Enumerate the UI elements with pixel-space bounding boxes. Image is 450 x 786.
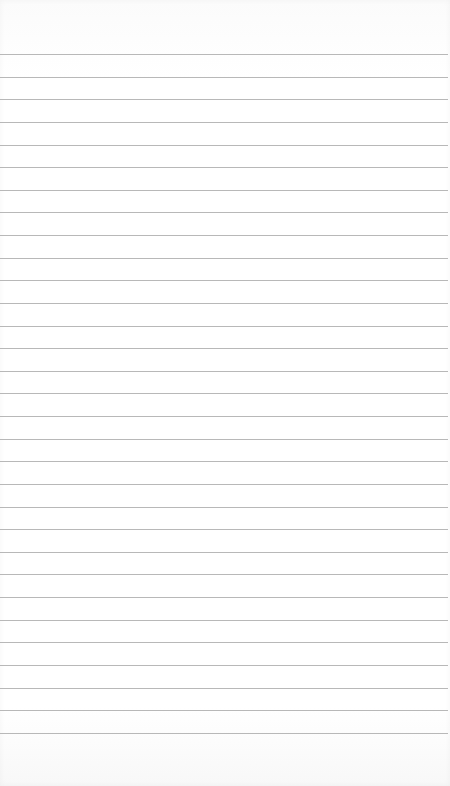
ruled-line [0,439,448,440]
ruled-line [0,507,448,508]
ruled-line [0,212,448,213]
ruled-line [0,280,448,281]
ruled-line [0,99,448,100]
ruled-line [0,529,448,530]
ruled-line [0,348,448,349]
ruled-line [0,54,448,55]
ruled-line [0,484,448,485]
ruled-line [0,597,448,598]
ruled-line [0,326,448,327]
ruled-line [0,620,448,621]
ruled-line [0,416,448,417]
ruled-line [0,710,448,711]
ruled-line [0,167,448,168]
ruled-line [0,665,448,666]
ruled-line [0,688,448,689]
ruled-line [0,733,448,734]
lined-paper [0,0,450,786]
ruled-line [0,393,448,394]
ruled-line [0,371,448,372]
ruled-line [0,642,448,643]
ruled-line [0,552,448,553]
ruled-line [0,258,448,259]
ruled-line [0,145,448,146]
ruled-line [0,235,448,236]
ruled-line [0,122,448,123]
ruled-line [0,190,448,191]
ruled-line [0,574,448,575]
ruled-line [0,77,448,78]
ruled-line [0,303,448,304]
ruled-line [0,461,448,462]
